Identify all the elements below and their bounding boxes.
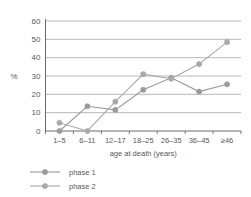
x-tick-label: 26–35: [161, 136, 182, 145]
y-tick-label: 0: [36, 127, 41, 136]
data-point: [224, 82, 229, 87]
line-chart: 0102030405060 1–56–1112–1718–2526–3536–4…: [0, 0, 251, 197]
legend-label-2: phase 2: [69, 182, 96, 191]
chart-container: 0102030405060 1–56–1112–1718–2526–3536–4…: [0, 0, 251, 197]
series-markers: [57, 39, 230, 133]
data-point: [85, 104, 90, 109]
series-line-1: [59, 78, 227, 131]
y-axis-tick-labels: 0102030405060: [32, 17, 41, 136]
x-tick-label: 12–17: [105, 136, 126, 145]
data-point: [113, 107, 118, 112]
data-point: [141, 72, 146, 77]
data-point: [224, 39, 229, 44]
y-tick-label: 30: [32, 72, 41, 81]
gridlines: [46, 21, 242, 113]
x-tick-label: 6–11: [79, 136, 95, 145]
series-line-2: [59, 42, 227, 131]
legend-marker-1: [42, 169, 47, 174]
x-axis-title: age at death (years): [110, 149, 178, 158]
data-point: [197, 89, 202, 94]
legend-marker-2: [42, 183, 47, 188]
data-point: [85, 128, 90, 133]
y-tick-label: 60: [32, 17, 41, 26]
data-point: [113, 99, 118, 104]
data-point: [57, 128, 62, 133]
y-tick-label: 20: [32, 90, 41, 99]
chart-legend: phase 1phase 2: [30, 168, 96, 191]
x-axis-tick-labels: 1–56–1112–1718–2526–3536–45≥46: [53, 136, 233, 145]
data-point: [57, 120, 62, 125]
x-tick-label: ≥46: [221, 136, 233, 145]
legend-label-1: phase 1: [69, 168, 96, 177]
data-point: [141, 87, 146, 92]
x-tick-label: 1–5: [53, 136, 66, 145]
data-point: [197, 61, 202, 66]
data-point: [169, 76, 174, 81]
series-lines: [59, 42, 227, 131]
x-tick-label: 18–25: [133, 136, 154, 145]
y-tick-label: 10: [32, 108, 41, 117]
y-axis-title: %: [10, 72, 17, 81]
x-tick-label: 36–45: [189, 136, 210, 145]
y-tick-label: 40: [32, 53, 41, 62]
y-tick-label: 50: [32, 35, 41, 44]
